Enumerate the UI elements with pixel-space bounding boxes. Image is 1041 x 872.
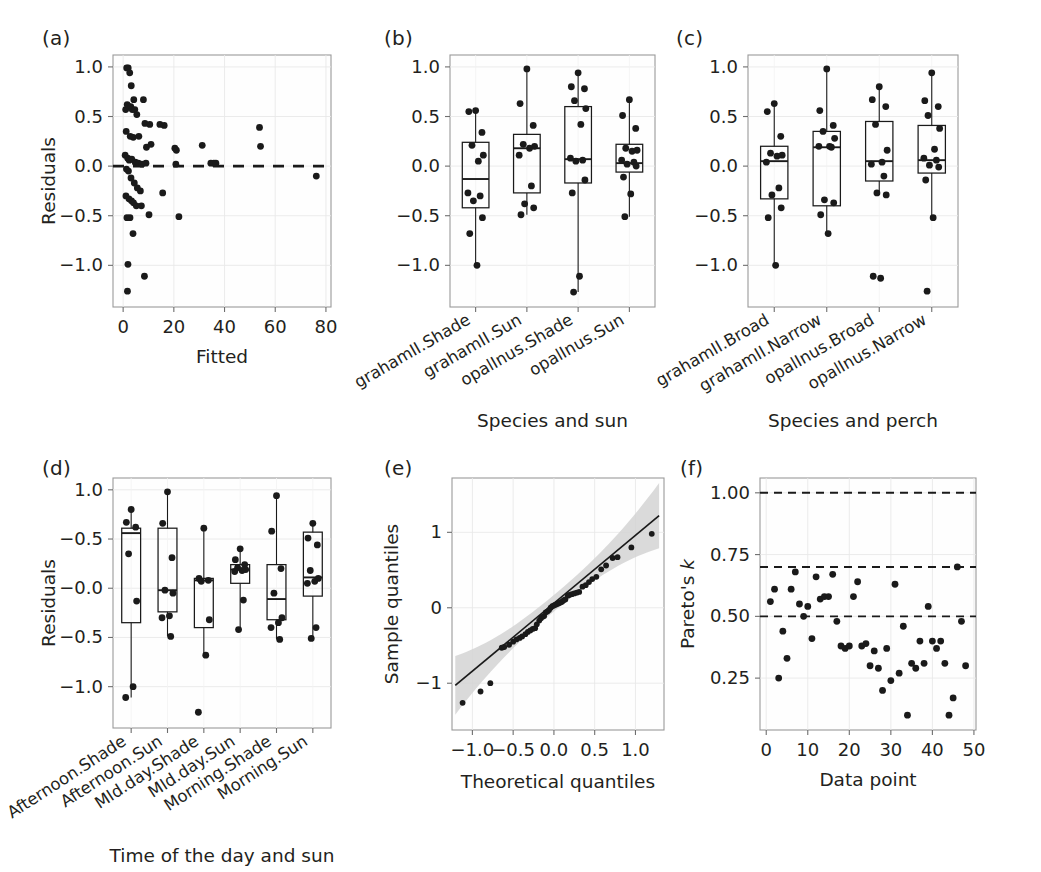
data-point xyxy=(618,157,625,164)
data-point xyxy=(268,624,275,631)
data-point xyxy=(629,148,636,155)
data-point xyxy=(475,158,482,165)
data-point xyxy=(958,618,965,625)
data-point xyxy=(817,211,824,218)
data-point xyxy=(517,100,524,107)
data-point xyxy=(928,69,935,76)
data-point xyxy=(619,112,626,119)
data-point xyxy=(815,143,822,150)
plot-frame xyxy=(450,55,655,307)
data-point xyxy=(869,96,876,103)
data-point xyxy=(941,660,948,667)
data-point xyxy=(796,601,803,608)
data-point xyxy=(874,190,881,197)
y-tick-label: 1.00 xyxy=(710,482,750,503)
data-point xyxy=(518,211,525,218)
data-point xyxy=(771,100,778,107)
data-point xyxy=(159,190,166,197)
panel-label-b: (b) xyxy=(384,26,413,50)
data-point xyxy=(146,211,153,218)
data-point xyxy=(828,144,835,151)
x-axis-title: Species and perch xyxy=(768,410,938,431)
y-tick-label: −0.5 xyxy=(59,205,103,226)
data-point xyxy=(774,153,781,160)
x-tick-label: 40 xyxy=(921,739,944,760)
data-point xyxy=(487,680,493,686)
data-point xyxy=(823,65,830,72)
data-point xyxy=(169,554,176,561)
data-point xyxy=(879,687,886,694)
data-point xyxy=(831,135,838,142)
data-point xyxy=(195,709,202,716)
data-point xyxy=(477,192,484,199)
data-point xyxy=(141,273,148,280)
x-tick-label: 0 xyxy=(761,739,772,760)
data-point xyxy=(767,150,774,157)
data-point xyxy=(777,133,784,140)
data-point xyxy=(127,214,134,221)
data-point xyxy=(920,155,927,162)
data-point xyxy=(935,103,942,110)
data-point xyxy=(460,700,466,706)
data-point xyxy=(833,618,840,625)
panel-f-pareto-k: 0.250.500.751.0001020304050Data pointPar… xyxy=(668,450,1008,850)
y-tick-label: 0.0 xyxy=(74,155,103,176)
data-point xyxy=(135,133,142,140)
data-point xyxy=(876,83,883,90)
y-axis-title: Residuals xyxy=(38,559,59,647)
panel-a-residuals-vs-fitted: −1.0−0.50.00.51.0020406080FittedResidual… xyxy=(25,20,355,410)
panel-e-qq-plot: −101−1.0−0.50.00.51.0Theoretical quantil… xyxy=(372,450,692,850)
data-point xyxy=(516,152,523,159)
data-point xyxy=(278,565,285,572)
data-point xyxy=(570,289,577,296)
data-point xyxy=(829,571,836,578)
data-point xyxy=(896,670,903,677)
data-point xyxy=(124,288,131,295)
panel-label-d: (d) xyxy=(42,456,71,480)
data-point xyxy=(148,141,155,148)
data-point xyxy=(313,624,320,631)
data-point xyxy=(125,168,132,175)
y-tick-label: 0 xyxy=(431,597,442,618)
data-point xyxy=(478,689,484,695)
data-point xyxy=(620,174,627,181)
data-point xyxy=(867,662,874,669)
panel-d-time-of-day-and-sun: −1.0−0.5−0.0−0.51.0Afternoon.ShadeAftern… xyxy=(25,450,365,870)
x-tick-label: 20 xyxy=(162,316,185,337)
data-point xyxy=(199,142,206,149)
data-point xyxy=(125,550,132,557)
data-point xyxy=(528,183,535,190)
data-point xyxy=(166,612,173,619)
data-point xyxy=(239,567,246,574)
data-point xyxy=(572,158,579,165)
data-point xyxy=(615,554,621,560)
data-point xyxy=(307,567,314,574)
data-point xyxy=(305,535,312,542)
data-point xyxy=(470,197,477,204)
data-point xyxy=(472,107,479,114)
x-tick-label: 0 xyxy=(117,316,128,337)
y-tick-label: −1.0 xyxy=(59,254,103,275)
data-point xyxy=(882,103,889,110)
data-point xyxy=(879,159,886,166)
data-point xyxy=(610,555,616,561)
data-point xyxy=(126,69,133,76)
panel-c-species-and-perch: −1.0−0.50.00.51.0grahamII.BroadgrahamII.… xyxy=(668,20,998,435)
data-point xyxy=(875,665,882,672)
data-point xyxy=(922,177,929,184)
panel-label-a: (a) xyxy=(42,26,70,50)
data-point xyxy=(603,563,609,569)
data-point xyxy=(575,69,582,76)
y-tick-label: 1.0 xyxy=(709,56,738,77)
data-point xyxy=(579,157,586,164)
x-tick-label: 80 xyxy=(314,316,337,337)
data-point xyxy=(465,190,472,197)
data-point xyxy=(313,173,320,180)
data-point xyxy=(237,545,244,552)
x-tick-label: 30 xyxy=(879,739,902,760)
y-tick-label: 0.75 xyxy=(710,544,750,565)
data-point xyxy=(850,593,857,600)
data-point xyxy=(767,598,774,605)
y-tick-label: 0.5 xyxy=(411,106,440,127)
x-tick-label: 10 xyxy=(796,739,819,760)
